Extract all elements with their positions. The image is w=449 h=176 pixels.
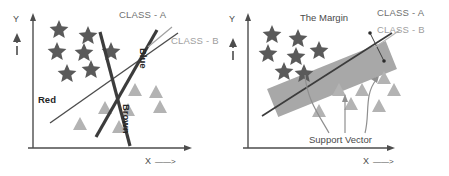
right-x-axis-label: X [363,157,369,166]
left-panel: CLASS - A CLASS - B Red Blue Brown Y X —… [0,0,225,176]
right-panel: The Margin CLASS - A CLASS - B Support V… [224,0,449,176]
y-axis [30,13,36,148]
x-axis [243,145,395,151]
right-class-a-label: CLASS - A [377,8,424,18]
support-vector-pointer-right [365,80,376,133]
left-x-axis-label: X [145,157,151,166]
y-axis-direction-arrow [13,33,21,55]
support-vector-pointer-middle [342,94,348,133]
left-class-a-label: CLASS - A [119,10,166,20]
y-axis [245,13,251,148]
left-x-axis-arrow: ——> [155,158,176,166]
left-y-axis-label: Y [13,15,19,24]
left-blue-line-label: Blue [139,48,149,69]
figure-root: CLASS - A CLASS - B Red Blue Brown Y X —… [0,0,449,176]
left-red-line-label: Red [38,95,56,105]
x-axis [28,145,192,151]
right-y-axis-label: Y [229,15,235,24]
right-x-axis-arrow: ——> [373,158,394,166]
y-axis-direction-arrow [229,38,237,60]
left-brown-line-label: Brown [122,104,132,134]
left-panel-canvas [0,0,225,176]
right-class-b-label: CLASS - B [377,25,425,35]
right-margin-label: The Margin [300,13,348,23]
left-class-b-label: CLASS - B [171,36,219,46]
right-support-vector-label: Support Vector [309,135,372,145]
